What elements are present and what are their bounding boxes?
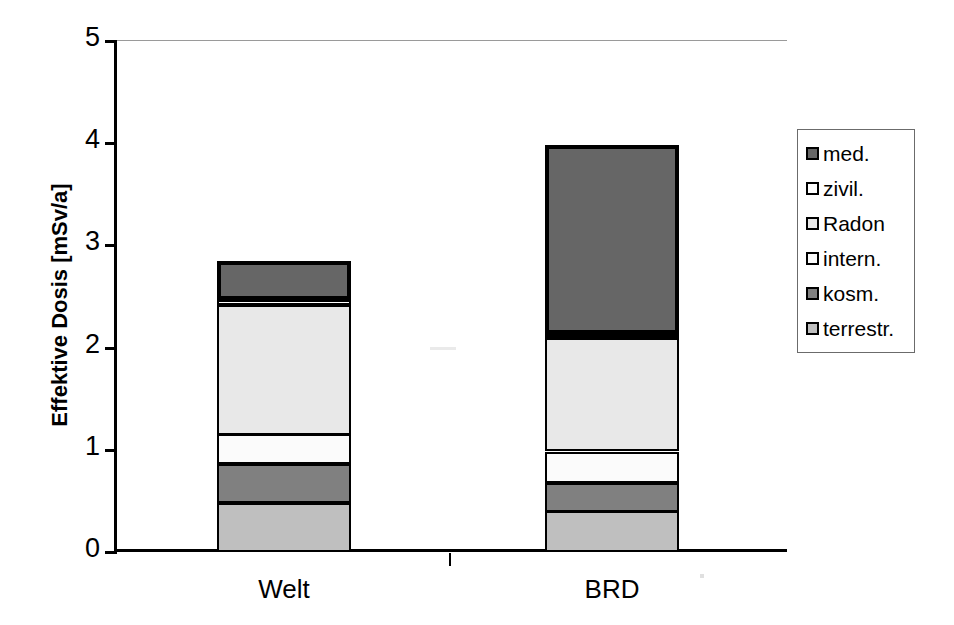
bar-segment-med [545, 145, 679, 334]
y-axis-tick-label: 3 [60, 228, 100, 255]
legend: med.zivil.Radonintern.kosm.terrestr. [797, 129, 915, 353]
scan-artifact [700, 574, 704, 578]
bar-segment-intern [217, 434, 351, 464]
legend-item[interactable]: kosm. [806, 276, 914, 311]
bar-segment-kosm [217, 464, 351, 503]
plot-area [114, 41, 787, 552]
legend-swatch-icon [806, 182, 819, 195]
stacked-bar [545, 0, 679, 552]
bar-segment-terrestr [217, 503, 351, 552]
legend-item-label: zivil. [823, 178, 864, 199]
legend-item[interactable]: med. [806, 136, 914, 171]
x-axis-category-separator-tick [449, 553, 451, 566]
legend-item[interactable]: terrestr. [806, 311, 914, 346]
bar-segment-radon [545, 338, 679, 451]
legend-item-label: med. [823, 143, 870, 164]
legend-swatch-icon [806, 217, 819, 230]
legend-entries: med.zivil.Radonintern.kosm.terrestr. [806, 136, 914, 346]
legend-item[interactable]: zivil. [806, 171, 914, 206]
y-axis-tick-label: 2 [60, 331, 100, 358]
bar-segment-zivil [217, 300, 351, 305]
y-axis-tick-label: 0 [60, 535, 100, 562]
x-axis-label-brd: BRD [505, 574, 719, 605]
legend-swatch-icon [806, 147, 819, 160]
y-axis-tick-label: 4 [60, 126, 100, 153]
legend-swatch-icon [806, 287, 819, 300]
legend-item-label: terrestr. [823, 318, 894, 339]
stacked-bar [217, 0, 351, 552]
legend-item-label: intern. [823, 248, 881, 269]
legend-item[interactable]: Radon [806, 206, 914, 241]
bar-segment-med [217, 261, 351, 300]
legend-item-label: Radon [823, 213, 885, 234]
bar-segment-radon [217, 305, 351, 435]
legend-swatch-icon [806, 252, 819, 265]
bar-segment-intern [545, 452, 679, 483]
bar-segment-zivil [545, 334, 679, 338]
y-axis-tick-label: 5 [60, 24, 100, 51]
bar-segment-terrestr [545, 511, 679, 552]
bar-segment-kosm [545, 483, 679, 512]
legend-item-label: kosm. [823, 283, 879, 304]
bar-chart: Effektive Dosis [mSv/a] 012345 WeltBRD m… [0, 0, 954, 625]
y-axis-tick-label: 1 [60, 433, 100, 460]
legend-item[interactable]: intern. [806, 241, 914, 276]
legend-swatch-icon [806, 322, 819, 335]
x-axis-label-welt: Welt [177, 574, 391, 605]
scan-artifact [430, 347, 456, 350]
